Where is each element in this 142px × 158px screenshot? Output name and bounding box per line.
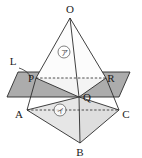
geometry-figure: ア イ O L P R Q A C B [0, 0, 142, 158]
vertex-label-O: O [66, 3, 74, 15]
upper-region-mark: ア [58, 46, 70, 58]
figure-canvas: ア イ O L P R Q A C B [0, 0, 142, 158]
vertex-label-Q: Q [83, 91, 91, 103]
upper-region-mark-text: ア [61, 49, 68, 56]
vertex-label-P: P [28, 72, 34, 84]
plane-label-L: L [10, 55, 17, 67]
lower-region-mark: イ [54, 104, 66, 116]
vertex-label-R: R [107, 72, 115, 84]
vertex-label-A: A [15, 108, 23, 120]
face-ABQ [27, 97, 80, 143]
lower-region-mark-text: イ [57, 107, 64, 114]
vertex-label-B: B [76, 146, 83, 158]
vertex-label-C: C [122, 108, 129, 120]
